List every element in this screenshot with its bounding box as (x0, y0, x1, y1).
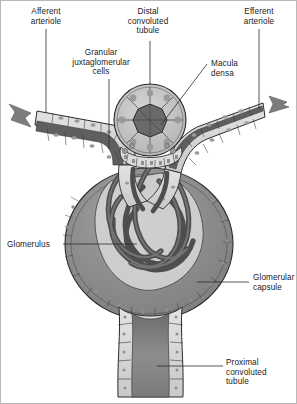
label-distal-convoluted-tubule: Distal convoluted tubule (108, 7, 188, 36)
proximal-convoluted-tubule (118, 307, 183, 397)
distal-convoluted-tubule (114, 84, 186, 156)
label-granular-juxtaglomerular-cells: Granular juxtaglomerular cells (55, 48, 147, 77)
figure-container: Afferent arteriole Distal convoluted tub… (0, 0, 297, 404)
label-macula-densa: Macula densa (211, 59, 271, 78)
label-glomerulus: Glomerulus (7, 240, 77, 250)
label-proximal-convoluted-tubule: Proximal convoluted tubule (226, 358, 288, 387)
blood-inflow-arrow (9, 104, 31, 127)
label-afferent-arteriole: Afferent arteriole (6, 7, 86, 26)
label-glomerular-capsule: Glomerular capsule (253, 273, 297, 292)
blood-outflow-arrow (269, 96, 289, 113)
label-efferent-arteriole: Efferent arteriole (219, 7, 297, 26)
